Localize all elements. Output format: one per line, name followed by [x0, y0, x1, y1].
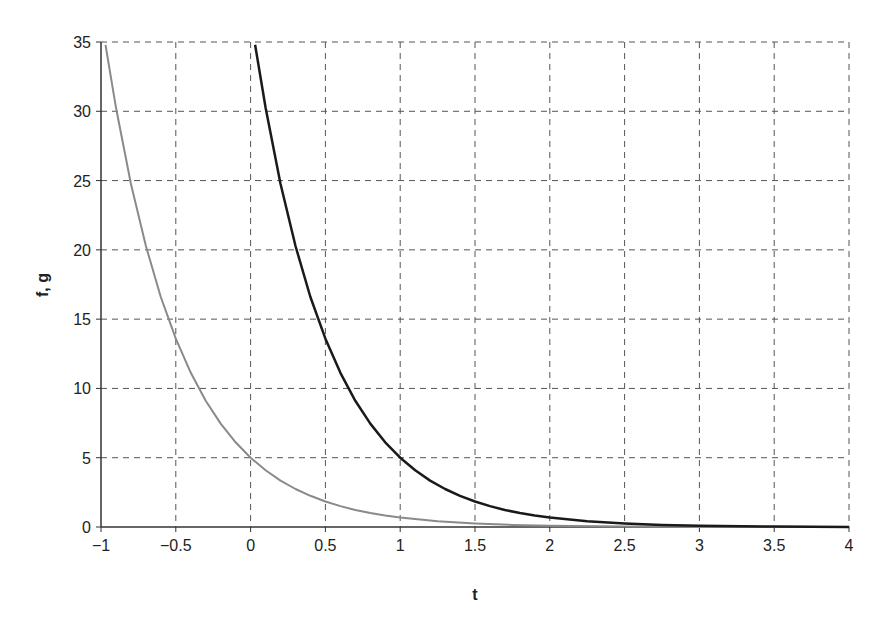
y-tick-label: 35	[73, 34, 91, 51]
x-tick-label: 3.5	[763, 537, 785, 554]
x-tick-label: −0.5	[160, 537, 192, 554]
x-tick-label: 0	[246, 537, 255, 554]
y-tick-label: 15	[73, 311, 91, 328]
x-tick-label: 0.5	[314, 537, 336, 554]
y-tick-label: 5	[82, 450, 91, 467]
line-chart: −1−0.500.511.522.533.54 05101520253035 t…	[0, 0, 883, 621]
x-tick-label: 1	[396, 537, 405, 554]
y-tick-label: 20	[73, 242, 91, 259]
y-tick-label: 10	[73, 380, 91, 397]
y-tick-label: 30	[73, 103, 91, 120]
grid-lines	[101, 42, 849, 527]
y-axis-title: f, g	[34, 273, 51, 297]
y-tick-label: 25	[73, 173, 91, 190]
series-g-line	[255, 45, 849, 527]
x-tick-label: 2.5	[613, 537, 635, 554]
series-lines	[106, 45, 850, 527]
x-tick-label: 1.5	[464, 537, 486, 554]
x-axis-title: t	[472, 586, 478, 603]
x-tick-label: −1	[92, 537, 110, 554]
y-tick-label: 0	[82, 519, 91, 536]
x-axis-ticks: −1−0.500.511.522.533.54	[92, 527, 854, 554]
x-tick-label: 3	[695, 537, 704, 554]
y-axis-ticks: 05101520253035	[73, 34, 101, 536]
x-tick-label: 4	[845, 537, 854, 554]
x-tick-label: 2	[545, 537, 554, 554]
series-f-line	[106, 45, 850, 527]
